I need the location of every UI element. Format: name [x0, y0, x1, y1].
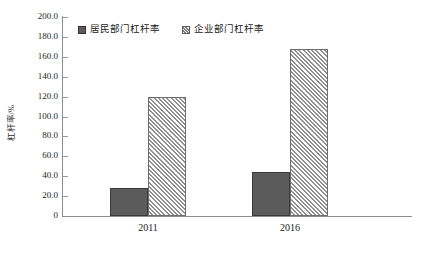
x-axis-label-2011: 2011: [103, 222, 193, 234]
y-axis-tick-label: 80.0: [14, 131, 58, 140]
legend: 居民部门杠杆率 企业部门杠杆率: [78, 24, 264, 35]
y-axis-tick-label: 120.0: [14, 92, 58, 101]
bar-2011-household: [110, 188, 148, 216]
legend-item-household[interactable]: 居民部门杠杆率: [78, 24, 160, 35]
x-axis-label-2016: 2016: [245, 222, 335, 234]
legend-label-household: 居民部门杠杆率: [90, 24, 160, 35]
bar-2016-household: [252, 172, 290, 216]
y-axis-tick-label: 0: [14, 211, 58, 220]
y-axis-tick-label: 40.0: [14, 171, 58, 180]
y-axis-tick-labels: 200.0180.0160.0140.0120.0100.080.060.040…: [10, 0, 58, 264]
y-axis-tick-label: 140.0: [14, 72, 58, 81]
y-axis-tick-label: 60.0: [14, 151, 58, 160]
y-axis-tick-label: 20.0: [14, 191, 58, 200]
plot-area: [62, 17, 412, 216]
bar-chart: 杠杆率/% 200.0180.0160.0140.0120.0100.080.0…: [0, 0, 428, 264]
x-axis-line: [62, 216, 412, 217]
legend-swatch-solid-icon: [78, 26, 86, 34]
y-axis-tick-label: 180.0: [14, 32, 58, 41]
y-axis-tick-label: 200.0: [14, 12, 58, 21]
legend-swatch-hatched-icon: [182, 26, 190, 34]
y-axis-tick-label: 160.0: [14, 52, 58, 61]
bar-2016-corporate: [290, 49, 328, 216]
y-axis-tick-label: 100.0: [14, 112, 58, 121]
legend-item-corporate[interactable]: 企业部门杠杆率: [182, 24, 264, 35]
bar-2011-corporate: [148, 97, 186, 216]
legend-label-corporate: 企业部门杠杆率: [194, 24, 264, 35]
